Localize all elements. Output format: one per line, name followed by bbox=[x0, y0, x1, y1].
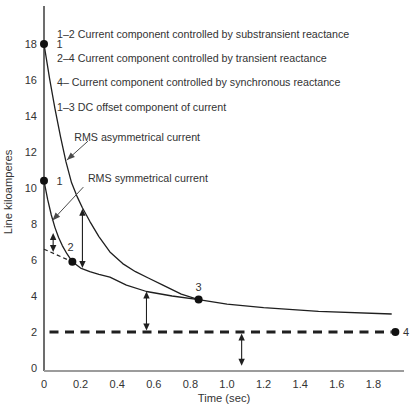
y-tick-label: 8 bbox=[31, 218, 37, 230]
point-marker-label: 3 bbox=[196, 281, 202, 293]
arrowhead-down-icon bbox=[50, 245, 56, 252]
callout-label: RMS asymmetrical current bbox=[74, 131, 200, 143]
point-marker-2 bbox=[68, 258, 76, 266]
y-tick-label: 2 bbox=[31, 326, 37, 338]
legend-note: 2–4 Current component controlled by tran… bbox=[57, 52, 327, 64]
y-tick-label: 4 bbox=[31, 290, 37, 302]
y-tick-label: 14 bbox=[25, 110, 37, 122]
y-tick-label: 12 bbox=[25, 146, 37, 158]
y-tick-label: 10 bbox=[25, 182, 37, 194]
x-tick-label: 0.2 bbox=[73, 378, 88, 390]
x-tick-label: 0.4 bbox=[110, 378, 125, 390]
point-marker-1 bbox=[40, 40, 48, 48]
legend-note: 1–3 DC offset component of current bbox=[57, 101, 226, 113]
arrowhead-down-icon bbox=[238, 359, 244, 366]
x-tick-label: 1.6 bbox=[329, 378, 344, 390]
point-marker-1 bbox=[40, 177, 48, 185]
point-marker-label: 4 bbox=[403, 326, 409, 338]
y-tick-label: 0 bbox=[31, 362, 37, 374]
legend-note: 1–2 Current component controlled by subs… bbox=[57, 28, 349, 40]
y-tick-label: 18 bbox=[25, 38, 37, 50]
point-marker-label: 1 bbox=[56, 175, 62, 187]
x-axis-title: Time (sec) bbox=[198, 392, 251, 404]
point-marker-4 bbox=[391, 328, 399, 336]
curve-rms-symmetrical-current bbox=[44, 181, 392, 314]
point-marker-label: 2 bbox=[67, 241, 73, 253]
point-marker-3 bbox=[195, 296, 203, 304]
dc-offset-component-arrow bbox=[79, 209, 85, 268]
y-axis-title: Line kiloamperes bbox=[2, 149, 14, 234]
x-tick-label: 1.2 bbox=[256, 378, 271, 390]
x-tick-label: 0 bbox=[41, 378, 47, 390]
short-circuit-decrement-chart: 02468101214161800.20.40.60.81.01.21.41.6… bbox=[0, 0, 414, 408]
y-tick-label: 6 bbox=[31, 254, 37, 266]
callout-label: RMS symmetrical current bbox=[88, 172, 208, 184]
figure-root: 02468101214161800.20.40.60.81.01.21.41.6… bbox=[0, 0, 414, 408]
arrowhead-down-icon bbox=[143, 324, 149, 331]
legend-note: 4– Current component controlled by synch… bbox=[57, 76, 340, 88]
arrowhead-up-icon bbox=[238, 333, 244, 340]
y-tick-label: 16 bbox=[25, 74, 37, 86]
callout-rms-symmetrical-current: RMS symmetrical current bbox=[50, 172, 208, 222]
x-tick-label: 1.8 bbox=[366, 378, 381, 390]
transient-component-arrow bbox=[143, 292, 149, 331]
subtransient-component-arrow bbox=[50, 233, 56, 252]
x-tick-label: 0.8 bbox=[183, 378, 198, 390]
callout-rms-asymmetrical-current: RMS asymmetrical current bbox=[65, 131, 200, 163]
x-tick-label: 1.0 bbox=[219, 378, 234, 390]
x-tick-label: 0.6 bbox=[146, 378, 161, 390]
x-tick-label: 1.4 bbox=[293, 378, 308, 390]
arrowhead-up-icon bbox=[50, 233, 56, 240]
synchronous-component-arrow bbox=[238, 333, 244, 365]
point-marker-label: 1 bbox=[56, 38, 62, 50]
